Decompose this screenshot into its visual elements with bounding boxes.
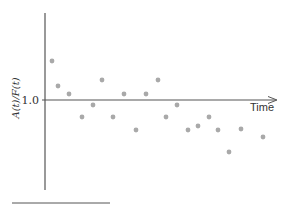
data-points (50, 59, 266, 155)
x-axis-label: Time (250, 101, 274, 113)
y-axis-label: A(t)/F(t) (10, 77, 21, 119)
data-point (216, 128, 221, 133)
data-point (196, 124, 201, 129)
data-point (50, 59, 55, 64)
data-point (207, 115, 212, 120)
data-point (111, 115, 116, 120)
data-point (80, 115, 85, 120)
data-point (186, 128, 191, 133)
y-tick-label: 1.0 (22, 94, 40, 107)
data-point (144, 92, 149, 97)
data-point (91, 103, 96, 108)
data-point (56, 84, 61, 89)
data-point (100, 78, 105, 83)
scatter-chart: 1.0 Time A(t)/F(t) (0, 0, 292, 208)
data-point (261, 135, 266, 140)
data-point (156, 78, 161, 83)
data-point (227, 150, 232, 155)
data-point (239, 127, 244, 132)
data-point (67, 92, 72, 97)
data-point (164, 115, 169, 120)
data-point (122, 92, 127, 97)
data-point (134, 128, 139, 133)
data-point (175, 103, 180, 108)
